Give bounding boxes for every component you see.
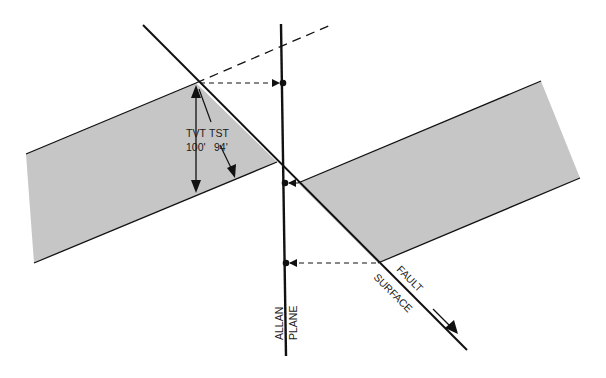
plane-label: PLANE bbox=[287, 306, 299, 340]
projection-point-middle bbox=[282, 180, 289, 187]
footwall-bed bbox=[26, 83, 277, 263]
allan-plane-line bbox=[281, 24, 286, 356]
fault-diagram: TVT 100' TST 94' FAULT SURFACE ALLAN PLA… bbox=[0, 0, 606, 378]
tst-label: TST bbox=[209, 127, 229, 139]
allan-label: ALLAN bbox=[273, 307, 285, 340]
tvt-label: TVT bbox=[186, 127, 206, 139]
tvt-value: 100' bbox=[186, 141, 206, 153]
hanging-wall-bed bbox=[298, 81, 580, 263]
projection-point-top bbox=[280, 80, 287, 87]
slip-direction-arrowhead bbox=[445, 320, 458, 334]
tst-value: 94' bbox=[214, 141, 228, 153]
projected-bed-top-dashed bbox=[196, 24, 333, 83]
projection-point-bottom bbox=[283, 260, 290, 267]
